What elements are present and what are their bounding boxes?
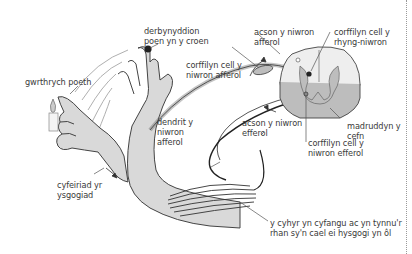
label-efferent-axon: acson y niwron efferol xyxy=(242,118,302,138)
label-pain-receptor: derbynyddion poen yn y croen xyxy=(144,26,209,46)
label-stimulus-direction: cyfeiriad yr ysgogiad xyxy=(57,180,102,200)
hand-withdrawn xyxy=(57,97,128,182)
label-interneuron-cell-body: corffilyn cell y rhyng-niwron xyxy=(334,27,390,47)
label-hot-object: gwrthrych poeth xyxy=(25,77,91,87)
label-afferent-cell-body: corffilyn cell y niwron afferol xyxy=(186,60,242,80)
label-afferent-dendrite: dendrit y niwron afferol xyxy=(157,117,193,147)
page-edge-divider xyxy=(406,0,407,254)
spinal-cord-section xyxy=(280,47,360,118)
pain-receptor-icon xyxy=(144,45,151,52)
label-effector-muscle: y cyhyr yn cyfangu ac yn tynnu'r rhan sy… xyxy=(270,218,402,238)
label-afferent-axon: acson y niwron afferol xyxy=(254,27,314,47)
reflex-arc-diagram: derbynyddion poen yn y croen gwrthrych p… xyxy=(0,0,412,254)
candle-icon xyxy=(49,99,58,131)
label-efferent-cell-body: corffilyn cell y niwron efferol xyxy=(308,138,364,158)
